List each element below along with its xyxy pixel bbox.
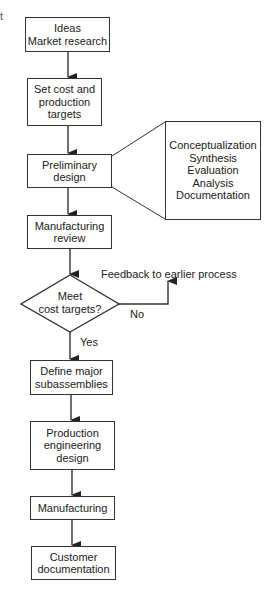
node-line: design xyxy=(53,171,85,184)
node-line: Define major xyxy=(40,365,102,378)
expansion-line: Documentation xyxy=(176,189,250,202)
no-label: No xyxy=(130,308,144,320)
expansion-line: Analysis xyxy=(193,177,234,190)
node-line: Manufacturing xyxy=(38,502,108,515)
node-line: Market research xyxy=(28,35,107,48)
expansion-line: Evaluation xyxy=(187,164,238,177)
node-line: review xyxy=(54,232,86,245)
node-line: Production xyxy=(46,427,99,440)
decision-line: Meet xyxy=(30,290,110,303)
decision-cost-targets: Meet cost targets? xyxy=(30,290,110,315)
stray-mark: t xyxy=(0,10,3,22)
node-line: targets xyxy=(48,108,82,121)
node-preliminary-design: Preliminary design xyxy=(27,154,112,188)
expansion-box: Conceptualization Synthesis Evaluation A… xyxy=(165,121,261,220)
node-set-targets: Set cost and production targets xyxy=(27,78,102,126)
node-line: production xyxy=(39,96,90,109)
node-define-subassemblies: Define major subassemblies xyxy=(30,360,113,395)
yes-label: Yes xyxy=(80,336,98,348)
feedback-label: Feedback to earlier process xyxy=(101,268,237,280)
node-line: Ideas xyxy=(54,22,81,35)
node-line: Preliminary xyxy=(42,159,97,172)
node-line: documentation xyxy=(37,563,109,576)
node-line: Manufacturing xyxy=(35,220,105,233)
node-production-engineering: Production engineering design xyxy=(30,421,115,470)
node-ideas: Ideas Market research xyxy=(25,17,110,52)
node-line: Set cost and xyxy=(34,83,95,96)
expansion-line: Conceptualization xyxy=(169,139,256,152)
decision-line: cost targets? xyxy=(30,303,110,316)
node-line: design xyxy=(56,452,88,465)
node-line: engineering xyxy=(44,439,102,452)
node-line: Customer xyxy=(50,551,98,564)
node-manufacturing-review: Manufacturing review xyxy=(27,215,112,249)
node-line: subassemblies xyxy=(35,378,108,391)
node-customer-documentation: Customer documentation xyxy=(31,546,116,580)
expansion-line: Synthesis xyxy=(189,152,237,165)
node-manufacturing: Manufacturing xyxy=(30,496,115,520)
